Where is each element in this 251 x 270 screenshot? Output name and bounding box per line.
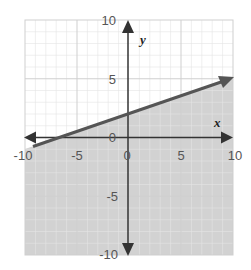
y-tick-5: 5 xyxy=(109,72,116,87)
y-tick-0: 0 xyxy=(109,130,116,145)
y-axis-up-arrow xyxy=(122,20,134,33)
x-axis-left-arrow xyxy=(24,132,36,144)
y-tick-neg5: -5 xyxy=(106,189,118,204)
x-tick-0: 0 xyxy=(123,148,130,163)
coordinate-plane: -10 -5 0 5 10 10 5 0 -5 -10 y x xyxy=(0,0,251,270)
y-axis-label: y xyxy=(138,32,146,47)
x-tick-5: 5 xyxy=(177,148,184,163)
x-tick-10: 10 xyxy=(228,148,242,163)
x-tick-neg5: -5 xyxy=(71,148,83,163)
y-tick-10: 10 xyxy=(102,13,116,28)
y-tick-neg10: -10 xyxy=(99,247,118,262)
x-tick-neg10: -10 xyxy=(14,148,33,163)
x-axis-label: x xyxy=(213,115,221,130)
